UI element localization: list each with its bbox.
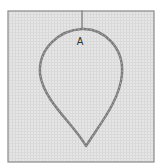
- point-label: A: [77, 36, 84, 47]
- stitch-diagram: A: [0, 0, 163, 168]
- leaf-stitch-illustration: A: [0, 0, 163, 168]
